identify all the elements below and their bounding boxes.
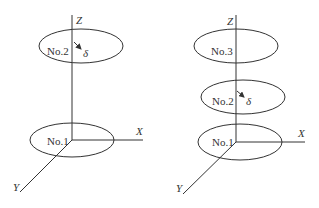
disk-no1-label: No.1 bbox=[47, 135, 69, 147]
diagram-right: Z No.3 No.2 δ No.1 X Y bbox=[176, 15, 306, 194]
offset-arrow-icon bbox=[74, 42, 81, 49]
diagram-left: Z No.2 δ No.1 X Y bbox=[13, 14, 144, 193]
disk-no3-label: No.3 bbox=[211, 45, 233, 57]
x-axis-label: X bbox=[135, 125, 144, 137]
disk-no2-label: No.2 bbox=[212, 95, 234, 107]
y-axis bbox=[20, 140, 72, 192]
offset-symbol: δ bbox=[246, 95, 252, 107]
disk-no1-label: No.1 bbox=[212, 136, 234, 148]
y-axis-label: Y bbox=[13, 181, 21, 193]
offset-symbol: δ bbox=[83, 47, 89, 59]
z-axis-label: Z bbox=[227, 15, 234, 27]
y-axis bbox=[183, 142, 236, 194]
y-axis-label: Y bbox=[176, 182, 184, 194]
figure: Z No.2 δ No.1 X Y Z No.3 No.2 δ No.1 X Y bbox=[0, 0, 319, 208]
offset-arrow-icon bbox=[237, 91, 244, 97]
disk-no2-label: No.2 bbox=[47, 45, 69, 57]
z-axis-label: Z bbox=[76, 14, 83, 26]
x-axis-label: X bbox=[297, 127, 306, 139]
